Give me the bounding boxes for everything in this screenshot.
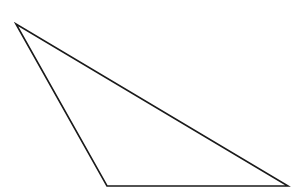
triangle-diagram [0, 0, 307, 190]
triangle-shape [16, 24, 288, 186]
